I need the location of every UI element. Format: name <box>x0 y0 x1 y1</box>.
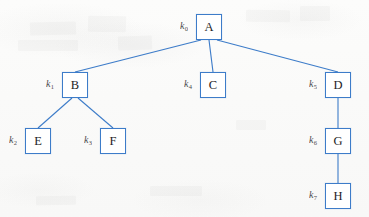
key-letter: k <box>184 78 188 89</box>
tree-node-e[interactable]: E <box>25 128 51 154</box>
tree-edge-b-e <box>38 98 72 128</box>
tree-edge-b-f <box>78 98 113 128</box>
key-label-c: k4 <box>184 78 192 89</box>
tree-node-label: G <box>333 134 342 149</box>
key-letter: k <box>9 134 13 145</box>
tree-edge-a-b <box>75 40 201 72</box>
key-subscript: 7 <box>314 194 317 201</box>
key-subscript: 4 <box>189 83 192 90</box>
key-label-b: k1 <box>46 78 54 89</box>
key-subscript: 1 <box>51 83 54 90</box>
key-letter: k <box>309 134 313 145</box>
tree-node-d[interactable]: D <box>325 72 351 98</box>
key-letter: k <box>180 20 184 31</box>
tree-node-a[interactable]: A <box>196 14 222 40</box>
tree-node-label: B <box>71 78 79 93</box>
key-subscript: 5 <box>314 83 317 90</box>
tree-node-label: C <box>209 78 217 93</box>
key-label-g: k6 <box>309 134 317 145</box>
tree-edge-a-d <box>217 40 338 72</box>
key-label-d: k5 <box>309 78 317 89</box>
tree-node-label: D <box>333 78 342 93</box>
key-letter: k <box>309 78 313 89</box>
tree-node-label: H <box>333 189 342 204</box>
key-letter: k <box>309 189 313 200</box>
tree-node-label: E <box>34 134 42 149</box>
key-subscript: 2 <box>14 139 17 146</box>
tree-node-label: F <box>110 134 117 149</box>
tree-edges <box>0 0 369 217</box>
key-label-a: k0 <box>180 20 188 31</box>
tree-node-b[interactable]: B <box>62 72 88 98</box>
tree-edge-a-c <box>209 40 213 72</box>
key-letter: k <box>84 134 88 145</box>
key-label-f: k3 <box>84 134 92 145</box>
tree-node-g[interactable]: G <box>325 128 351 154</box>
tree-node-f[interactable]: F <box>100 128 126 154</box>
key-label-e: k2 <box>9 134 17 145</box>
tree-node-h[interactable]: H <box>325 183 351 209</box>
key-subscript: 3 <box>89 139 92 146</box>
tree-node-label: A <box>204 20 213 35</box>
key-subscript: 0 <box>185 25 188 32</box>
key-subscript: 6 <box>314 139 317 146</box>
tree-node-c[interactable]: C <box>200 72 226 98</box>
key-letter: k <box>46 78 50 89</box>
tree-diagram-figure: Ak0Bk1Ck4Dk5Ek2Fk3Gk6Hk7 <box>0 0 369 217</box>
key-label-h: k7 <box>309 189 317 200</box>
